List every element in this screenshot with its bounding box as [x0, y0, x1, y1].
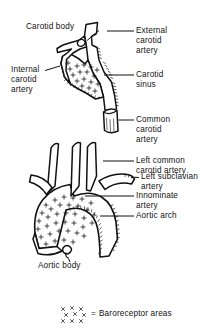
label-innominate-artery: Innominate artery	[136, 191, 178, 211]
label-external-carotid-artery: External carotid artery	[136, 26, 167, 57]
carotid-bifurcation-drawing	[45, 23, 134, 133]
label-internal-carotid-artery: Internal carotid artery	[11, 65, 40, 96]
leader-internal-carotid	[45, 66, 60, 71]
label-aortic-body: Aortic body	[38, 261, 81, 271]
label-left-subclavian-artery: Left subclavian artery	[141, 172, 198, 192]
baroreceptor-anatomy-figure	[0, 0, 222, 330]
aortic-arch-shape	[35, 185, 118, 258]
label-aortic-arch: Aortic arch	[136, 211, 177, 221]
innominate-artery-shape	[71, 143, 81, 197]
left-subclavian-artery-shape	[99, 174, 135, 189]
common-carotid-artery-shape	[104, 109, 119, 133]
left-common-carotid-medial-branch-shape	[87, 143, 97, 192]
legend-symbol-xmarks	[62, 307, 86, 323]
label-carotid-body: Carotid body	[26, 22, 74, 32]
leader-left-subclavian	[131, 177, 139, 178]
legend-label: Baroreceptor areas	[99, 309, 172, 319]
label-common-carotid-artery: Common carotid artery	[136, 115, 170, 146]
label-carotid-sinus: Carotid sinus	[136, 70, 163, 90]
legend-equals: =	[91, 309, 96, 319]
aortic-arch-drawing	[30, 143, 140, 263]
aortic-body-shape	[63, 246, 72, 259]
